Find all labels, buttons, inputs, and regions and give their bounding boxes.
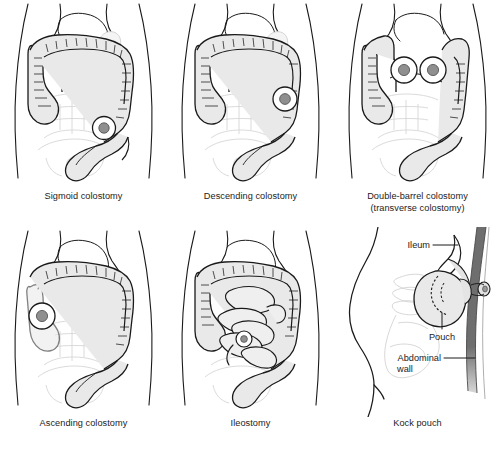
panel-caption: Double-barrel colostomy(transverse colos…: [367, 191, 468, 214]
abdominal-wall-label-line1: Abdominal: [398, 353, 441, 363]
panel-descending-colostomy: Descending colostomy: [167, 0, 334, 227]
descending-colostomy-illustration: [167, 0, 334, 190]
panel-ascending-colostomy: Ascending colostomy: [0, 227, 167, 454]
body-profile: [349, 227, 384, 417]
colon-structure: [27, 262, 134, 408]
colon-structure: [362, 36, 469, 181]
abdominal-wall-band: [467, 227, 490, 399]
kock-pouch-illustration: Ileum Pouch Abdominal wall: [334, 227, 501, 417]
caption-line-1: Double-barrel colostomy: [367, 191, 468, 201]
stoma-marker-proximal: [391, 57, 417, 83]
panel-caption: Kock pouch: [393, 418, 442, 430]
stoma-marker: [29, 303, 55, 329]
panel-double-barrel-colostomy: Double-barrel colostomy(transverse colos…: [334, 0, 501, 227]
stoma-marker: [236, 331, 252, 347]
double-barrel-colostomy-illustration: [334, 0, 501, 190]
abdominal-wall-label-line2: wall: [396, 364, 413, 374]
panel-caption: Ascending colostomy: [40, 418, 128, 430]
stoma-marker: [273, 87, 297, 111]
panel-sigmoid-colostomy: Sigmoid colostomy: [0, 0, 167, 227]
panel-caption: Ileostomy: [231, 418, 271, 430]
ascending-colostomy-illustration: [0, 227, 167, 417]
ileostomy-illustration: [167, 227, 334, 417]
panel-ileostomy: Ileostomy: [167, 227, 334, 454]
ostomy-types-figure: Sigmoid colostomy: [0, 0, 501, 454]
sigmoid-colostomy-illustration: [0, 0, 167, 190]
panel-kock-pouch: Ileum Pouch Abdominal wall Kock pouch: [334, 227, 501, 454]
pouch-reservoir: [414, 271, 471, 327]
colon-structure: [28, 35, 133, 181]
pouch-label: Pouch: [429, 332, 455, 342]
panel-caption: Descending colostomy: [204, 191, 297, 203]
stoma-marker-distal: [420, 57, 446, 83]
stoma-marker: [93, 117, 116, 140]
panel-caption: Sigmoid colostomy: [45, 191, 123, 203]
panel-grid: Sigmoid colostomy: [0, 0, 501, 454]
caption-line-2: (transverse colostomy): [367, 203, 468, 215]
ileum-label: Ileum: [408, 240, 431, 250]
